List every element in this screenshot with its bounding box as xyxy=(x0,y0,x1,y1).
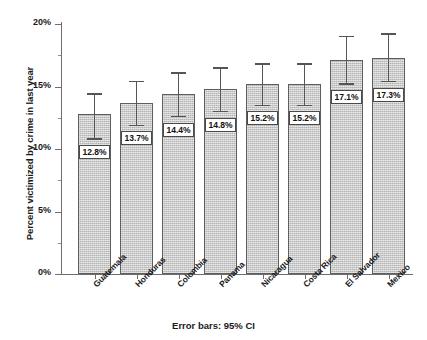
y-axis-tick-label: 15% xyxy=(33,80,51,90)
error-bar-stem xyxy=(136,82,138,126)
error-bar-cap-upper xyxy=(171,72,186,74)
error-bar-stem xyxy=(346,37,348,85)
error-bar-cap-lower xyxy=(297,105,312,107)
error-bar-cap-lower xyxy=(339,83,354,85)
error-bar-cap-lower xyxy=(171,116,186,118)
y-axis-tick-mark xyxy=(55,274,61,275)
error-bar-cap-upper xyxy=(255,63,270,65)
error-bar-cap-lower xyxy=(87,138,102,140)
bar-value-label: 15.2% xyxy=(289,111,320,125)
error-bar-cap-upper xyxy=(87,93,102,95)
y-axis-title: Percent victimized by crime in last year xyxy=(24,39,35,269)
error-bar-stem xyxy=(178,73,180,117)
plot-area: 12.8%13.7%14.4%14.8%15.2%15.2%17.1%17.3% xyxy=(61,22,413,274)
bar-value-label: 17.1% xyxy=(331,90,362,104)
y-axis-tick-label: 20% xyxy=(33,17,51,27)
bar-value-label: 13.7% xyxy=(121,131,152,145)
error-bar-cap-lower xyxy=(255,105,270,107)
bar-value-label: 14.4% xyxy=(163,123,194,137)
bar-value-label: 14.8% xyxy=(205,118,236,132)
y-axis-tick-label: 0% xyxy=(38,267,51,277)
y-axis-tick-label: 10% xyxy=(33,142,51,152)
error-bar-cap-upper xyxy=(339,36,354,38)
error-bar-cap-upper xyxy=(213,67,228,69)
error-bar-cap-lower xyxy=(381,81,396,83)
error-bar-cap-lower xyxy=(213,111,228,113)
bar-chart: Percent victimized by crime in last year… xyxy=(0,0,427,340)
error-bar-cap-upper xyxy=(381,33,396,35)
error-bar-cap-lower xyxy=(129,125,144,127)
error-bar-cap-upper xyxy=(297,63,312,65)
error-bar-stem xyxy=(94,94,96,139)
bar-value-label: 17.3% xyxy=(373,88,404,102)
bar-value-label: 12.8% xyxy=(79,145,110,159)
error-bar-cap-upper xyxy=(129,81,144,83)
error-bar-stem xyxy=(262,64,264,105)
error-bar-stem xyxy=(388,34,390,82)
bar-value-label: 15.2% xyxy=(247,111,278,125)
error-bar-stem xyxy=(304,64,306,105)
error-bar-footnote: Error bars: 95% CI xyxy=(0,320,427,331)
bar xyxy=(120,103,153,274)
error-bar-stem xyxy=(220,68,222,112)
y-axis-tick-label: 5% xyxy=(38,205,51,215)
bar xyxy=(162,94,195,274)
